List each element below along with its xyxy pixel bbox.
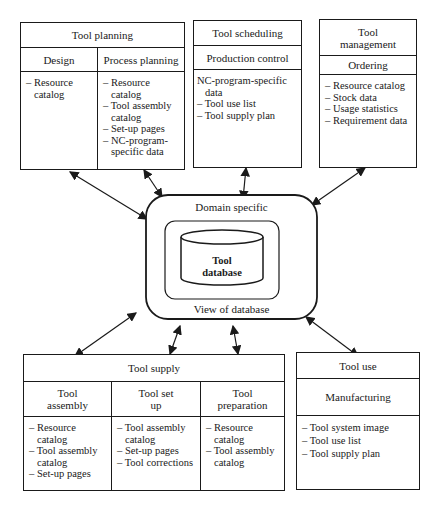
tool-planning-box: Tool planning Design – Resource catalog …	[20, 22, 185, 170]
tool-supply-title: Tool supply	[24, 355, 284, 382]
tool-supply-box: Tool supply Tool assembly – Resource cat…	[23, 354, 285, 491]
tool-set-up-list: – Tool assembly catalog – Set-up pages –…	[112, 417, 200, 468]
tool-use-box: Tool use Manufacturing – Tool system ima…	[296, 352, 420, 490]
tool-scheduling-title: Tool scheduling	[194, 21, 301, 46]
process-planning-header: Process planning	[98, 48, 184, 72]
tool-preparation-header: Tool preparation	[201, 382, 284, 417]
tool-scheduling-box: Tool scheduling Production control NC-pr…	[193, 20, 302, 168]
tool-assembly-header: Tool assembly	[24, 382, 111, 417]
tool-database-label: Tool database	[181, 255, 263, 279]
tool-management-title: Tool management	[320, 20, 416, 56]
tool-use-title: Tool use	[297, 353, 419, 379]
production-control-list: NC-program-specific data – Tool use list…	[194, 70, 301, 121]
tool-assembly-list: – Resource catalog – Tool assembly catal…	[24, 417, 111, 480]
tool-set-up-header: Tool set up	[112, 382, 200, 417]
tool-preparation-list: – Resource catalog – Tool assembly catal…	[201, 417, 284, 468]
ordering-list: – Resource catalog – Stock data – Usage …	[320, 75, 416, 126]
domain-specific-label: Domain specific	[146, 201, 317, 213]
tool-management-box: Tool management Ordering – Resource cata…	[319, 19, 417, 168]
process-planning-list: – Resource catalog – Tool assembly catal…	[98, 72, 184, 158]
design-header: Design	[21, 48, 97, 72]
manufacturing-list: – Tool system image – Tool use list – To…	[297, 416, 419, 460]
design-list: – Resource catalog	[21, 72, 97, 100]
view-of-database-label: View of database	[146, 303, 317, 315]
production-control-header: Production control	[194, 46, 301, 70]
ordering-header: Ordering	[320, 56, 416, 75]
manufacturing-header: Manufacturing	[297, 379, 419, 416]
tool-planning-title: Tool planning	[21, 23, 184, 48]
